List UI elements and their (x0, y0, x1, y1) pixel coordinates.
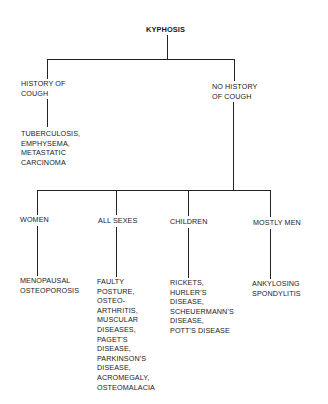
node-mostly-men: MOSTLY MEN (253, 218, 301, 228)
connector-no-history-stem (233, 102, 234, 191)
node-no-history-of-cough: NO HISTORY OF COUGH (212, 82, 257, 101)
connector-to-all-sexes (116, 190, 117, 215)
root-node-kyphosis: KYPHOSIS (146, 25, 185, 35)
connector-mostly-men-to-causes (270, 229, 271, 279)
connector-to-history-of-cough (47, 59, 48, 79)
causes-history-of-cough: TUBERCULOSIS, EMPHYSEMA, METASTATIC CARC… (21, 129, 80, 167)
connector-history-to-causes (47, 99, 48, 127)
node-children: CHILDREN (170, 217, 208, 227)
connector-children-to-causes (188, 228, 189, 278)
causes-children: RICKETS, HURLER'S DISEASE, SCHEUERMANN'S… (170, 278, 234, 336)
connector-to-no-history-of-cough (234, 59, 235, 81)
connector-to-mostly-men (270, 190, 271, 217)
connector-to-children (188, 190, 189, 216)
connector-to-women (37, 190, 38, 215)
connector-root-stem (167, 35, 168, 60)
causes-women: MENOPAUSAL OSTEOPOROSIS (20, 276, 79, 295)
connector-women-to-causes (37, 226, 38, 276)
node-women: WOMEN (20, 215, 49, 225)
connector-no-history-branch (37, 190, 271, 191)
node-all-sexes: ALL SEXES (98, 216, 137, 226)
node-history-of-cough: HISTORY OF COUGH (21, 79, 66, 98)
causes-mostly-men: ANKYLOSING SPONDYLITIS (252, 279, 301, 298)
connector-all-sexes-to-causes (116, 227, 117, 277)
causes-all-sexes: FAULTY POSTURE, OSTEO- ARTHRITIS, MUSCUL… (97, 277, 155, 392)
connector-root-branch (47, 59, 235, 60)
